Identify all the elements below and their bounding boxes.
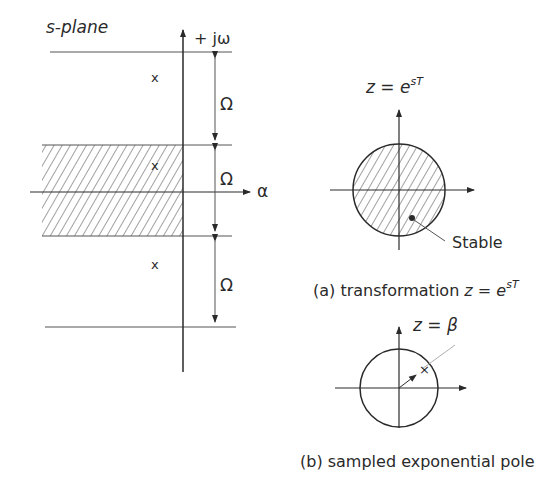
jw-axis-label: + jω xyxy=(194,29,230,48)
z-plane-sampled-pole: z = β × (b) sampled exponential pole xyxy=(300,315,535,471)
sampled-pole-marker: × xyxy=(419,362,430,377)
pole-marker: x xyxy=(151,257,159,272)
z-equation-base: z = e xyxy=(365,77,410,97)
z-equation: z = esT xyxy=(365,75,424,97)
z-equation-exponent: sT xyxy=(410,75,424,88)
z-plane-transformation: z = esT Stable (a) transformation z = es… xyxy=(313,75,520,300)
omega-label: Ω xyxy=(220,169,233,189)
caption-a: (a) transformation z = esT xyxy=(313,278,520,300)
beta-equation: z = β xyxy=(412,315,458,335)
stable-label: Stable xyxy=(452,233,503,252)
diagram-canvas: s-plane + jω α Ω Ω Ω x x x z = esT xyxy=(0,0,550,493)
omega-label: Ω xyxy=(220,275,233,295)
caption-b: (b) sampled exponential pole xyxy=(300,452,535,471)
s-plane-title: s-plane xyxy=(46,17,108,37)
pole-marker: x xyxy=(151,70,159,85)
caption-a-eq: z = e xyxy=(463,281,506,300)
caption-a-exp: sT xyxy=(506,278,520,291)
sigma-axis-label: α xyxy=(257,181,268,201)
hatched-strip xyxy=(42,145,183,236)
pole-vector xyxy=(399,375,416,388)
s-plane: s-plane + jω α Ω Ω Ω x x x xyxy=(30,17,268,372)
pole-marker: x xyxy=(151,158,159,173)
omega-label: Ω xyxy=(220,94,233,114)
caption-a-text: (a) transformation xyxy=(313,281,464,300)
